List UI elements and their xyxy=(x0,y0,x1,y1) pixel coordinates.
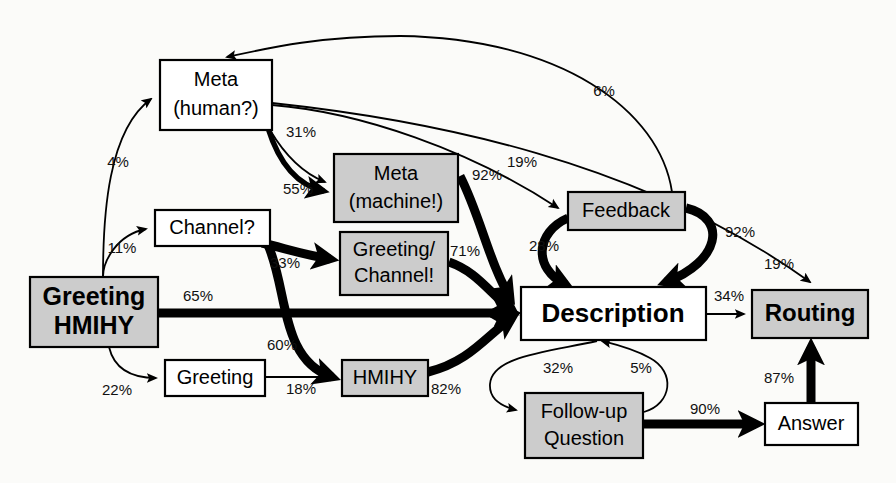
node-meta-machine-label-1: Meta xyxy=(374,162,419,184)
edge-label-meta-human-to-meta-machine-31: 31% xyxy=(286,123,316,140)
node-meta-human[interactable]: Meta (human?) xyxy=(160,60,272,130)
edge-label-feedback-to-meta-human: 6% xyxy=(593,82,615,99)
edge-label-hmihy-to-description: 82% xyxy=(431,380,461,397)
edge-label-feedback-to-description: 28% xyxy=(529,237,559,254)
node-greeting-label: Greeting xyxy=(177,366,254,388)
node-description[interactable]: Description xyxy=(521,287,706,340)
node-hmihy-label: HMIHY xyxy=(353,366,417,388)
edge-label-meta-human-to-meta-machine-55: 55% xyxy=(283,180,313,197)
node-greeting[interactable]: Greeting xyxy=(165,360,265,396)
edge-label-greeting-hmihy-to-description: 65% xyxy=(183,287,213,304)
edge-label-answer-to-routing: 87% xyxy=(764,369,794,386)
edge-hmihy-to-description xyxy=(428,318,512,372)
edge-label-meta-machine-to-description: 92% xyxy=(472,166,502,183)
state-transition-diagram: Greeting HMIHY Meta (human?) Channel? Gr… xyxy=(0,0,896,483)
edge-label-followup-to-description: 5% xyxy=(630,359,652,376)
node-answer[interactable]: Answer xyxy=(765,403,858,445)
edge-label-description-to-followup: 32% xyxy=(543,359,573,376)
edge-label-greeting-channel-to-description: 71% xyxy=(450,242,480,259)
node-meta-machine[interactable]: Meta (machine!) xyxy=(334,154,458,222)
edge-label-greeting-hmihy-to-greeting: 22% xyxy=(102,381,132,398)
node-greeting-hmihy[interactable]: Greeting HMIHY xyxy=(30,277,158,347)
node-meta-machine-label-2: (machine!) xyxy=(349,190,443,212)
edge-label-followup-to-answer: 90% xyxy=(690,400,720,417)
edge-greeting-hmihy-to-greeting xyxy=(109,347,156,378)
edge-label-greeting-hmihy-to-meta-human: 4% xyxy=(107,153,129,170)
node-greeting-hmihy-label-2: HMIHY xyxy=(54,311,135,339)
edge-label-greeting-to-hmihy: 18% xyxy=(286,380,316,397)
edge-label-meta-human-to-feedback: 19% xyxy=(507,153,537,170)
edge-meta-machine-to-description xyxy=(460,176,510,297)
node-followup-question-label-2: Question xyxy=(544,427,624,449)
node-meta-human-label-1: Meta xyxy=(194,68,239,90)
diagram-canvas: Greeting HMIHY Meta (human?) Channel? Gr… xyxy=(0,0,896,483)
node-followup-question-label-1: Follow-up xyxy=(541,400,628,422)
edge-label-feedback-to-routing: 92% xyxy=(725,223,755,240)
node-channel-question[interactable]: Channel? xyxy=(155,210,270,246)
node-channel-question-label: Channel? xyxy=(169,216,255,238)
node-description-label: Description xyxy=(541,298,684,328)
node-followup-question[interactable]: Follow-up Question xyxy=(525,393,643,458)
node-routing[interactable]: Routing xyxy=(752,290,868,338)
node-hmihy[interactable]: HMIHY xyxy=(342,360,428,396)
nodes-layer: Greeting HMIHY Meta (human?) Channel? Gr… xyxy=(30,60,868,458)
node-routing-label: Routing xyxy=(765,299,856,326)
edge-label-channel-to-greeting-channel: 33% xyxy=(270,254,300,271)
node-greeting-channel[interactable]: Greeting/ Channel! xyxy=(340,232,448,295)
node-feedback[interactable]: Feedback xyxy=(568,192,685,230)
node-greeting-channel-label-2: Channel! xyxy=(354,264,434,286)
edge-label-channel-to-hmihy: 60% xyxy=(267,336,297,353)
edge-label-greeting-hmihy-to-channel: 11% xyxy=(108,239,137,256)
node-meta-human-label-2: (human?) xyxy=(173,97,259,119)
node-greeting-channel-label-1: Greeting/ xyxy=(353,238,436,260)
edge-label-description-to-routing: 34% xyxy=(714,287,744,304)
edge-label-meta-human-to-routing: 19% xyxy=(764,255,794,272)
node-answer-label: Answer xyxy=(778,412,845,434)
node-greeting-hmihy-label-1: Greeting xyxy=(43,282,146,310)
node-feedback-label: Feedback xyxy=(582,199,671,221)
